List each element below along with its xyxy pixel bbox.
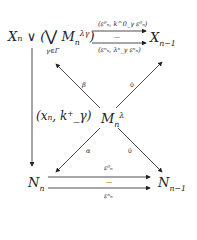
zero-label-top: 0 [130,82,134,88]
top-upper-label: (ε⁰ₙ, k^0_γ ε⁰ₙ) [98,21,147,28]
top-dots: ⋯ [114,34,120,40]
top-lower-label: (εⁿₙ, λⁿ_γ εⁿₙ) [98,47,141,54]
node-center: Mnλ [101,112,124,125]
left-vertical-label: (xₙ, k⁺_γ) [36,110,91,122]
alpha-arrow [56,128,100,172]
bottom-lower-label: εⁿₙ [104,193,113,200]
zero-arrow-top [116,62,162,108]
node-top-left: Xₙ ∨ (⋁ Mnλγ) [8,29,95,44]
zero-arrow-bottom [118,128,162,172]
bottom-dots: ⋯ [106,179,112,185]
alpha-label: α [86,148,90,155]
node-bottom-left: Nn [28,176,44,189]
node-top-left-index: γ∈Γ [46,48,59,55]
zero-label-bottom: 0 [128,148,132,154]
beta-arrow [56,64,100,108]
beta-label: β [82,82,86,89]
bottom-upper-label: ε⁰ₙ [104,165,113,172]
node-bottom-right: Nn−1 [158,176,186,189]
node-top-right: Xn−1 [150,31,176,44]
